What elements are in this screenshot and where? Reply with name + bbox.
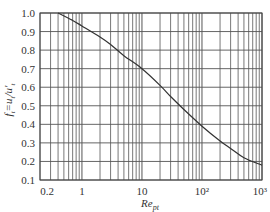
x-axis-ticks: 0.211010²10³: [40, 185, 268, 197]
y-tick-label: 1.0: [21, 7, 35, 19]
y-tick-label: 0.7: [21, 63, 35, 75]
y-tick-label: 0.2: [21, 155, 35, 167]
y-tick-label: 0.8: [21, 44, 35, 56]
x-tick-label: 1: [79, 185, 85, 197]
x-tick-label: 10: [136, 185, 148, 197]
y-tick-label: 0.9: [21, 26, 35, 38]
y-axis-ticks: 1.00.90.80.70.60.50.40.30.20.1: [21, 7, 35, 186]
y-tick-label: 0.4: [21, 118, 35, 130]
y-tick-label: 0.3: [21, 137, 35, 149]
grid-lines: [40, 13, 262, 180]
chart-canvas: 1.00.90.80.70.60.50.40.30.20.1 0.211010²…: [0, 0, 270, 212]
y-tick-label: 0.5: [21, 100, 35, 112]
y-axis-label: ft=ut/u't: [2, 83, 17, 117]
x-axis-label: Rept: [140, 197, 160, 212]
x-tick-label: 10³: [253, 185, 268, 197]
x-tick-label: 0.2: [40, 185, 54, 197]
y-tick-label: 0.6: [21, 81, 35, 93]
plot-frame: [40, 13, 262, 180]
x-tick-label: 10²: [195, 185, 210, 197]
y-tick-label: 0.1: [21, 174, 35, 186]
